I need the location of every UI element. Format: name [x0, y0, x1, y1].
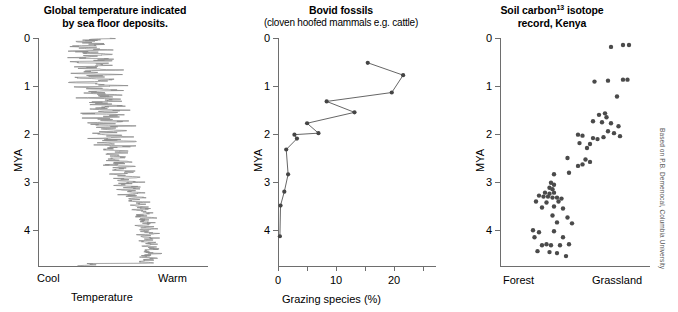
bovid-data-point — [316, 131, 320, 135]
bovid-title-line1: Bovid fossils — [230, 4, 452, 17]
soil-title-superscript: 13 — [557, 4, 565, 11]
soil-data-point — [546, 194, 550, 198]
soil-data-point — [585, 146, 589, 150]
bovid-series — [278, 38, 436, 266]
soil-data-point — [583, 157, 587, 161]
soil-data-point — [555, 220, 559, 224]
soil-x-right-label: Grassland — [592, 274, 642, 286]
soil-data-point — [592, 79, 596, 83]
bovid-x-label-0: 0 — [275, 274, 281, 286]
temperature-x-axis — [38, 266, 208, 267]
bovid-x-axis — [278, 266, 436, 267]
soil-data-point — [564, 254, 568, 258]
soil-y-label-3: 3 — [472, 176, 492, 188]
soil-data-point — [621, 43, 625, 47]
soil-data-point — [540, 205, 544, 209]
temperature-y-label-2: 2 — [10, 128, 30, 140]
bovid-y-label-2: 2 — [250, 128, 270, 140]
soil-data-point — [567, 242, 571, 246]
soil-data-point — [552, 190, 556, 194]
bovid-y-axis-title: MYA — [252, 149, 264, 172]
bovid-data-point — [325, 99, 329, 103]
bovid-title-line2: (cloven hoofed mammals e.g. cattle) — [230, 17, 452, 30]
soil-data-point — [550, 213, 554, 217]
soil-data-point — [547, 250, 551, 254]
soil-data-point — [609, 121, 613, 125]
soil-data-point — [552, 229, 556, 233]
bovid-data-point — [286, 172, 290, 176]
soil-data-point — [556, 199, 560, 203]
temperature-x-axis-title: Temperature — [71, 291, 133, 303]
soil-title-pre: Soil carbon — [500, 4, 556, 16]
temperature-title-line1: Global temperature indicated — [0, 4, 230, 17]
soil-scatter — [500, 38, 650, 266]
temperature-plot-area — [38, 38, 208, 266]
soil-title-line2: record, Kenya — [452, 17, 652, 30]
panel-soil-carbon-isotope: Soil carbon13 isotope record, Kenya 0 1 … — [452, 0, 678, 312]
soil-x-left-label: Forest — [503, 274, 534, 286]
soil-data-point — [541, 194, 545, 198]
soil-data-point — [544, 200, 548, 204]
soil-y-label-0: 0 — [472, 32, 492, 44]
soil-data-point — [606, 78, 610, 82]
bovid-x-tick-0 — [278, 266, 279, 271]
temperature-panel-title: Global temperature indicated by sea floo… — [0, 4, 230, 29]
soil-data-point — [588, 160, 592, 164]
soil-data-point — [561, 206, 565, 210]
temperature-y-label-4: 4 — [10, 224, 30, 236]
soil-data-point — [550, 195, 554, 199]
soil-data-point — [603, 111, 607, 115]
bovid-x-tick-20 — [394, 266, 395, 271]
soil-data-point — [549, 243, 553, 247]
figure-credit: Based on P.B. Demenocal, Columbia Univer… — [659, 128, 666, 269]
soil-data-point — [612, 131, 616, 135]
bovid-data-point — [278, 234, 282, 238]
soil-data-point — [627, 43, 631, 47]
soil-data-point — [561, 235, 565, 239]
bovid-x-label-20: 20 — [388, 274, 400, 286]
bovid-data-point — [278, 203, 282, 207]
bovid-x-axis-title: Grazing species (%) — [282, 293, 381, 305]
soil-data-point — [552, 183, 556, 187]
soil-data-point — [600, 120, 604, 124]
soil-data-point — [552, 172, 556, 176]
soil-x-axis — [500, 266, 650, 267]
bovid-data-point — [292, 133, 296, 137]
temperature-x-left-label: Cool — [37, 272, 60, 284]
temperature-title-line2: by sea floor deposits. — [0, 17, 230, 30]
bovid-data-point — [284, 147, 288, 151]
bovid-data-point — [352, 110, 356, 114]
bovid-data-point — [401, 73, 405, 77]
soil-data-point — [618, 134, 622, 138]
soil-data-point — [540, 243, 544, 247]
bovid-data-point — [366, 61, 370, 65]
soil-data-point — [570, 221, 574, 225]
bovid-data-point — [282, 190, 286, 194]
soil-data-point — [531, 228, 535, 232]
temperature-y-label-3: 3 — [10, 176, 30, 188]
temperature-x-right-label: Warm — [158, 272, 187, 284]
bovid-data-point — [305, 121, 309, 125]
soil-y-label-1: 1 — [472, 80, 492, 92]
soil-data-point — [565, 215, 569, 219]
soil-data-point — [609, 45, 613, 49]
soil-title-line1: Soil carbon13 isotope — [452, 4, 652, 17]
bovid-x-label-10: 10 — [330, 274, 342, 286]
soil-y-axis-title: MYA — [474, 149, 486, 172]
bovid-x-tick-10 — [336, 266, 337, 271]
soil-data-point — [555, 195, 559, 199]
soil-data-point — [543, 190, 547, 194]
soil-data-point — [595, 137, 599, 141]
temperature-y-axis-title: MYA — [12, 149, 24, 172]
bovid-y-label-4: 4 — [250, 224, 270, 236]
temperature-y-label-1: 1 — [10, 80, 30, 92]
bovid-panel-title: Bovid fossils (cloven hoofed mammals e.g… — [230, 4, 452, 29]
soil-data-point — [616, 124, 620, 128]
soil-data-point — [565, 156, 569, 160]
soil-panel-title: Soil carbon13 isotope record, Kenya — [452, 4, 652, 29]
soil-data-point — [552, 204, 556, 208]
panel-bovid-fossils: Bovid fossils (cloven hoofed mammals e.g… — [230, 0, 452, 312]
soil-data-point — [588, 142, 592, 146]
bovid-plot-area — [278, 38, 436, 266]
paleoclimate-figure: Global temperature indicated by sea floo… — [0, 0, 678, 312]
